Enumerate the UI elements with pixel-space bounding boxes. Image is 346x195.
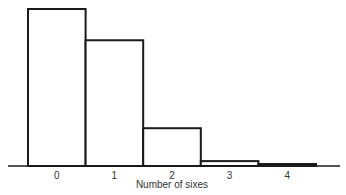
x-tick-label: 1 xyxy=(112,170,118,181)
bar-1 xyxy=(86,40,144,166)
x-tick-label: 3 xyxy=(227,170,233,181)
bar-0 xyxy=(28,9,86,166)
x-tick-label: 0 xyxy=(54,170,60,181)
bars-group xyxy=(28,9,316,166)
x-tick-label: 4 xyxy=(284,170,290,181)
histogram-chart: 01234 Number of sixes xyxy=(0,0,346,195)
x-axis-label: Number of sixes xyxy=(136,179,208,190)
bar-2 xyxy=(143,128,201,166)
